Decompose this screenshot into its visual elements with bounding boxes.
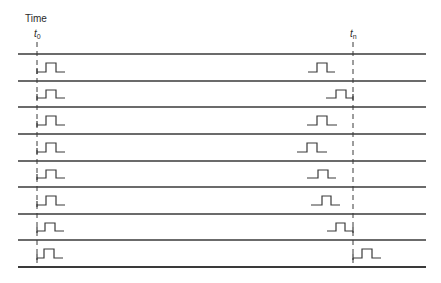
left-pulse-waveform: [37, 90, 65, 98]
pulse-row-3: [37, 116, 337, 127]
pulse-row-4: [37, 143, 327, 154]
pulse-row-8: [37, 249, 381, 260]
right-pulse-waveform: [307, 170, 336, 178]
left-pulse-waveform: [37, 63, 65, 72]
timing-diagram: Time t0tn: [0, 0, 441, 283]
right-pulse-waveform: [327, 223, 353, 231]
marker-label-t0: t0: [34, 28, 41, 40]
left-pulse-waveform: [37, 249, 63, 258]
right-pulse-waveform: [297, 143, 327, 152]
right-pulse-waveform: [307, 116, 337, 125]
right-pulse-waveform: [308, 63, 335, 72]
right-pulse-waveform: [326, 90, 353, 98]
right-pulse-waveform: [311, 196, 340, 205]
pulse-row-6: [37, 196, 340, 207]
pulse-row-1: [37, 63, 335, 74]
left-pulse-waveform: [37, 170, 65, 178]
pulse-row-5: [37, 170, 336, 180]
left-pulse-waveform: [37, 143, 65, 152]
row-separators: [18, 54, 426, 267]
left-pulse-waveform: [37, 196, 65, 205]
time-markers: t0tn: [34, 28, 357, 265]
left-pulse-waveform: [37, 116, 65, 125]
pulse-row-7: [37, 223, 353, 233]
pulse-row-2: [37, 90, 353, 100]
marker-label-tn: tn: [350, 28, 357, 40]
left-pulse-waveform: [37, 223, 64, 231]
right-pulse-waveform: [353, 249, 381, 258]
time-axis-label: Time: [25, 13, 47, 24]
